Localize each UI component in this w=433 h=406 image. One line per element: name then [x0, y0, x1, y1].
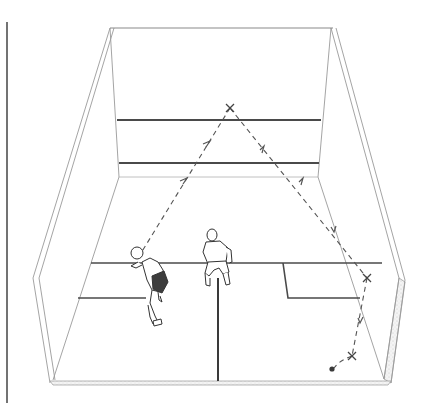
front-wall-contact-icon — [226, 104, 234, 112]
player-left — [131, 247, 168, 326]
arrow-icon — [203, 141, 210, 147]
right-side-wall — [318, 28, 405, 383]
arrow-icon — [358, 317, 363, 323]
ball-icon — [329, 366, 334, 371]
arrow-icon — [180, 178, 187, 184]
arrow-icon — [299, 178, 303, 185]
contact-markers — [226, 104, 371, 360]
floor — [50, 263, 391, 385]
left-side-wall — [33, 28, 119, 383]
squash-court-diagram — [0, 0, 433, 406]
right-service-box — [283, 263, 360, 298]
front-wall — [110, 28, 333, 177]
ball-path — [138, 108, 367, 368]
player-center — [203, 229, 232, 286]
floor-back-edge — [50, 381, 391, 385]
arrow-icon — [260, 146, 264, 153]
